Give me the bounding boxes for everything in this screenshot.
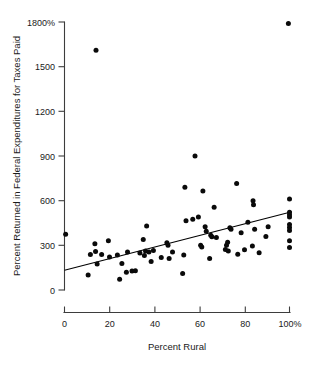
data-point xyxy=(214,235,219,240)
data-point xyxy=(144,223,149,228)
data-point xyxy=(117,277,122,282)
data-point xyxy=(99,252,104,257)
x-tick-label: 40 xyxy=(150,319,160,329)
data-point xyxy=(207,256,212,261)
data-point xyxy=(94,48,99,53)
data-point xyxy=(193,154,198,159)
regression-line xyxy=(65,212,292,270)
data-point xyxy=(92,241,97,246)
data-point xyxy=(181,253,186,258)
data-point xyxy=(166,243,171,248)
data-point xyxy=(286,21,291,26)
y-tick-label: 300 xyxy=(40,241,55,251)
data-point xyxy=(196,215,201,220)
x-axis-ticks xyxy=(65,307,290,313)
data-point xyxy=(287,228,292,233)
x-axis-tick-labels: 0 20 40 60 80 100% xyxy=(62,319,302,329)
data-point xyxy=(245,220,250,225)
y-tick-label: 1800% xyxy=(27,18,55,28)
data-point xyxy=(151,248,156,253)
y-axis-title: Percent Returned in Federal Expenditures… xyxy=(11,36,22,276)
data-point xyxy=(88,252,93,257)
x-tick-label: 60 xyxy=(195,319,205,329)
data-point xyxy=(266,224,271,229)
data-point xyxy=(167,256,172,261)
data-point xyxy=(180,271,185,276)
data-point xyxy=(159,255,164,260)
x-tick-label: 20 xyxy=(105,319,115,329)
y-tick-label: 600 xyxy=(40,196,55,206)
data-point xyxy=(133,268,138,273)
data-point xyxy=(200,188,205,193)
scatter-points-layer xyxy=(63,21,292,282)
y-tick-label: 1200 xyxy=(35,107,55,117)
y-axis-tick-labels: 1800% 1500 1200 900 600 300 0 xyxy=(27,18,55,296)
data-point xyxy=(250,244,255,249)
data-point xyxy=(229,227,234,232)
data-point xyxy=(106,238,111,243)
y-axis-ticks xyxy=(59,22,65,290)
data-point xyxy=(287,238,292,243)
x-axis-title: Percent Rural xyxy=(148,341,206,352)
data-point xyxy=(107,254,112,259)
data-point xyxy=(252,227,257,232)
data-point xyxy=(212,205,217,210)
data-point xyxy=(242,247,247,252)
data-point xyxy=(204,229,209,234)
data-point xyxy=(287,196,292,201)
data-point xyxy=(234,181,239,186)
x-tick-label: 80 xyxy=(240,319,250,329)
data-point xyxy=(209,234,214,239)
data-point xyxy=(287,215,292,220)
data-point xyxy=(203,224,208,229)
data-point xyxy=(141,237,146,242)
data-point xyxy=(119,261,124,266)
data-point xyxy=(182,185,187,190)
data-point xyxy=(149,259,154,264)
data-point xyxy=(226,248,231,253)
data-point xyxy=(124,270,129,275)
data-point xyxy=(235,252,240,257)
data-point xyxy=(86,273,91,278)
data-point xyxy=(146,250,151,255)
data-point xyxy=(257,250,262,255)
data-point xyxy=(287,245,292,250)
y-tick-label: 900 xyxy=(40,152,55,162)
data-point xyxy=(170,250,175,255)
data-point xyxy=(184,218,189,223)
x-tick-label: 100% xyxy=(278,319,301,329)
y-tick-label: 0 xyxy=(50,286,55,296)
scatter-plot-figure: 1800% 1500 1200 900 600 300 0 Percent Re… xyxy=(0,0,310,367)
data-point xyxy=(190,217,195,222)
data-point xyxy=(95,261,100,266)
data-point xyxy=(115,253,120,258)
data-point xyxy=(239,230,244,235)
plot-canvas: 1800% 1500 1200 900 600 300 0 Percent Re… xyxy=(0,0,310,367)
data-point xyxy=(93,249,98,254)
data-point xyxy=(225,240,230,245)
data-point xyxy=(263,234,268,239)
data-point xyxy=(199,245,204,250)
data-point xyxy=(63,232,68,237)
data-point xyxy=(125,250,130,255)
data-point xyxy=(142,253,147,258)
data-point xyxy=(251,202,256,207)
y-tick-label: 1500 xyxy=(35,62,55,72)
data-point xyxy=(137,251,142,256)
x-tick-label: 0 xyxy=(62,319,67,329)
